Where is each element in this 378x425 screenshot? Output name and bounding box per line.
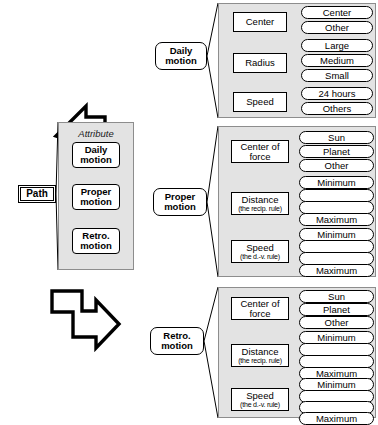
property-name: Center — [246, 17, 275, 27]
value-pill-proper-1-0[interactable]: Minimum — [299, 176, 374, 189]
value-pill-retro-0-1[interactable]: Planet — [299, 303, 374, 316]
fork-daily-top — [207, 3, 218, 56]
property-box-daily-1[interactable]: Radius — [233, 53, 287, 73]
fork-proper-top — [207, 126, 218, 202]
value-pill-daily-1-0[interactable]: Large — [301, 39, 373, 52]
value-pill-proper-0-2[interactable]: Other — [299, 159, 374, 172]
property-name: Distance — [242, 347, 279, 357]
value-pill-proper-1-3[interactable]: Maximum — [299, 213, 374, 226]
fork-retro-bottom — [204, 341, 218, 418]
property-sub-label: (the recip. rule) — [238, 357, 282, 364]
value-pill-proper-0-0[interactable]: Sun — [299, 131, 374, 144]
property-box-proper-0[interactable]: Center offorce — [231, 140, 289, 163]
value-pill-daily-1-2[interactable]: Small — [301, 69, 373, 82]
value-pill-daily-2-0[interactable]: 24 hours — [301, 87, 373, 100]
property-name: Distance — [242, 195, 279, 205]
attribute-chip-daily[interactable]: Dailymotion — [72, 142, 120, 168]
attribute-panel-title: Attribute — [59, 128, 133, 139]
property-sub-label: (the d.-v. rule) — [240, 253, 280, 260]
property-box-daily-0[interactable]: Center — [233, 12, 287, 32]
property-name: Center offorce — [240, 142, 279, 161]
property-name: Center offorce — [240, 299, 279, 318]
value-pill-daily-0-1[interactable]: Other — [301, 21, 373, 34]
property-box-proper-1[interactable]: Distance(the recip. rule) — [231, 192, 289, 215]
attribute-chip-retro[interactable]: Retro.motion — [72, 228, 120, 254]
property-sub-label: (the recip. rule) — [238, 205, 282, 212]
property-box-retro-0[interactable]: Center offorce — [231, 297, 289, 320]
property-box-retro-2[interactable]: Speed(the d.-v. rule) — [231, 388, 289, 411]
value-pill-retro-0-2[interactable]: Other — [299, 316, 374, 329]
stage-node-proper[interactable]: Propermotion — [153, 188, 207, 216]
fork-proper-bottom — [207, 202, 218, 277]
value-pill-proper-2-3[interactable]: Maximum — [299, 264, 374, 277]
fork-daily-bottom — [207, 56, 218, 118]
property-box-daily-2[interactable]: Speed — [233, 92, 287, 112]
property-sub-label: (the d.-v. rule) — [240, 401, 280, 408]
property-name: Speed — [246, 391, 273, 401]
property-name: Speed — [246, 97, 273, 107]
stage-node-retro[interactable]: Retro.motion — [150, 327, 204, 355]
path-root-box[interactable]: Path — [18, 185, 56, 203]
stage-node-daily[interactable]: Dailymotion — [155, 42, 207, 70]
value-pill-retro-2-3[interactable]: Maximum — [299, 412, 374, 425]
property-box-retro-1[interactable]: Distance(the recip. rule) — [231, 344, 289, 367]
value-pill-daily-2-1[interactable]: Others — [301, 102, 373, 115]
value-pill-daily-1-1[interactable]: Medium — [301, 54, 373, 67]
value-pill-proper-0-1[interactable]: Planet — [299, 145, 374, 158]
property-box-proper-2[interactable]: Speed(the d.-v. rule) — [231, 240, 289, 263]
fork-retro-top — [204, 287, 218, 341]
value-pill-retro-0-0[interactable]: Sun — [299, 290, 374, 303]
attribute-chip-proper[interactable]: Propermotion — [72, 184, 120, 210]
property-name: Speed — [246, 243, 273, 253]
value-pill-daily-0-0[interactable]: Center — [301, 6, 373, 19]
block-arrow-down-right — [52, 291, 119, 348]
property-name: Radius — [245, 58, 275, 68]
